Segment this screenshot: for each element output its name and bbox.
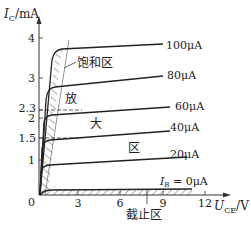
region-active-label-3: 区 [128, 141, 140, 155]
region-active-label-1: 放 [65, 91, 77, 106]
x-tick-3: 3 [75, 197, 82, 210]
y-tick-4: 4 [28, 32, 35, 45]
region-saturation-label: 饱和区 [77, 55, 113, 70]
region-active-label-2: 大 [90, 117, 102, 131]
y-axis-label: IC/mA [3, 7, 39, 23]
transistor-output-characteristic-chart: IC/mA UCE/V 0 4 3 2.3 2 1.5 1 3 6 9 12 1… [0, 0, 251, 229]
label-ib-0ua: IB = 0μA [159, 175, 209, 189]
region-cutoff-label: 截止区 [126, 208, 162, 222]
label-ib-40ua: 40μA [170, 121, 200, 134]
curve-ib-60ua [40, 107, 170, 195]
x-axis-label: UCE/V [214, 199, 249, 215]
y-tick-1: 1 [28, 154, 35, 167]
origin-label: 0 [28, 196, 35, 209]
x-tick-12: 12 [198, 197, 212, 210]
y-tick-3: 3 [28, 72, 35, 85]
label-ib-20ua: 20μA [170, 148, 200, 161]
label-ib-100ua: 100μA [166, 39, 203, 52]
y-tick-2: 2 [28, 112, 35, 125]
y-tick-1.5: 1.5 [19, 132, 37, 145]
curve-ib-40ua [40, 131, 170, 195]
label-ib-60ua: 60μA [175, 100, 205, 113]
x-tick-6: 6 [117, 197, 124, 210]
label-ib-80ua: 80μA [167, 69, 197, 82]
